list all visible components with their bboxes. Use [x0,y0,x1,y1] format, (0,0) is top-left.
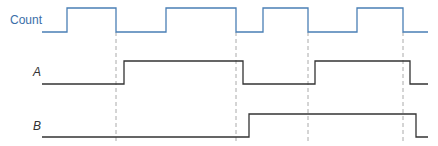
signal-label-count: Count [10,13,42,27]
waveform-count [42,8,428,32]
waveform-b [42,114,428,137]
signal-label-a: A [33,65,41,79]
timing-diagram: Count A B [0,0,438,146]
waveform-canvas [0,0,438,146]
signal-label-b: B [33,119,41,133]
waveform-a [42,61,428,84]
